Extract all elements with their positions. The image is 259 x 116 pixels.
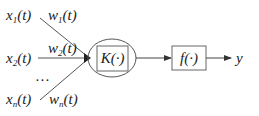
weight-wn: wn(t) [49,91,78,109]
kernel-label: K(·) [100,50,125,67]
neuron-diagram: x1(t) w1(t) x2(t) w2(t) … xn(t) wn(t) K(… [0,0,259,116]
input-x1: x1(t) [5,7,31,25]
input-x2: x2(t) [5,50,31,68]
weight-w2: w2(t) [48,40,77,58]
input-xn: xn(t) [5,91,31,109]
weight-w1: w1(t) [48,7,77,25]
ellipsis: … [36,68,49,84]
activation-label: f(·) [180,50,198,67]
output-label: y [234,50,243,66]
